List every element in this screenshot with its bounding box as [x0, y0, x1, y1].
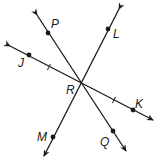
label-j: J: [17, 56, 25, 70]
lines-layer: [10, 9, 153, 156]
label-q: Q: [100, 135, 109, 149]
label-m: M: [37, 130, 47, 144]
point-q: [111, 129, 116, 134]
intersecting-lines-figure: PQLMJKR: [0, 0, 160, 165]
geometry-diagram: PQLMJKR: [0, 0, 160, 165]
label-r: R: [66, 83, 75, 97]
label-p: P: [51, 17, 59, 31]
label-l: L: [113, 27, 120, 41]
point-p: [46, 31, 51, 36]
label-k: K: [135, 97, 144, 111]
point-m: [51, 135, 56, 140]
point-l: [106, 27, 111, 32]
point-j: [27, 53, 32, 58]
